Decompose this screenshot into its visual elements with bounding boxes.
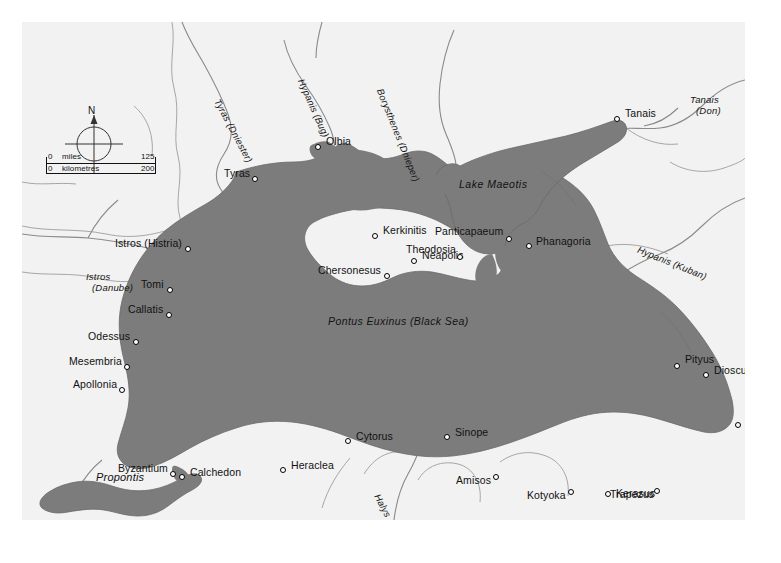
city-marker[interactable] [133, 339, 139, 345]
scale-miles-max: 125 [141, 152, 155, 161]
city-marker[interactable] [614, 116, 620, 122]
scale-tick-left-bottom [46, 164, 47, 173]
city-marker[interactable] [124, 364, 130, 370]
city-marker[interactable] [457, 254, 463, 260]
city-marker[interactable] [605, 491, 611, 497]
city-marker[interactable] [179, 474, 185, 480]
scale-km-min: 0 [48, 164, 53, 173]
city-marker[interactable] [384, 273, 390, 279]
city-marker[interactable] [166, 312, 172, 318]
city-marker[interactable] [568, 489, 574, 495]
scale-tick-right-bottom [155, 164, 156, 173]
city-marker[interactable] [119, 387, 125, 393]
city-marker[interactable] [654, 488, 660, 494]
scale-miles-label: miles [62, 152, 81, 161]
city-marker[interactable] [167, 287, 173, 293]
scale-tick-left-top [46, 157, 47, 164]
city-marker[interactable] [170, 471, 176, 477]
scale-line-bottom [46, 173, 156, 174]
map-panel[interactable]: N 0 miles 125 0 kilometres 200 Pontus Eu… [22, 22, 745, 520]
river-label-line: (Don) [696, 105, 721, 116]
city-marker[interactable] [315, 144, 321, 150]
scale-line-top [46, 163, 156, 164]
city-marker[interactable] [280, 467, 286, 473]
scale-tick-right-top [155, 157, 156, 164]
city-marker[interactable] [493, 474, 499, 480]
city-marker[interactable] [345, 438, 351, 444]
city-marker[interactable] [411, 258, 417, 264]
city-marker[interactable] [735, 422, 741, 428]
city-marker[interactable] [372, 233, 378, 239]
city-marker[interactable] [526, 243, 532, 249]
scale-km-max: 200 [141, 164, 155, 173]
scale-km-label: kilometres [62, 164, 99, 173]
river-label-line: Tanais [690, 94, 721, 105]
river-label: Istros(Danube) [86, 271, 133, 293]
scale-miles-min: 0 [48, 152, 53, 161]
city-marker[interactable] [252, 176, 258, 182]
city-marker[interactable] [185, 246, 191, 252]
city-marker[interactable] [703, 372, 709, 378]
river-label-line: Istros [86, 271, 133, 282]
map-figure: N 0 miles 125 0 kilometres 200 Pontus Eu… [0, 0, 781, 563]
city-marker[interactable] [674, 363, 680, 369]
river-label: Tanais(Don) [690, 94, 721, 116]
scale-bar: 0 miles 125 0 kilometres 200 [46, 152, 156, 176]
river-label-line: (Danube) [92, 282, 133, 293]
city-marker[interactable] [506, 236, 512, 242]
city-marker[interactable] [444, 434, 450, 440]
